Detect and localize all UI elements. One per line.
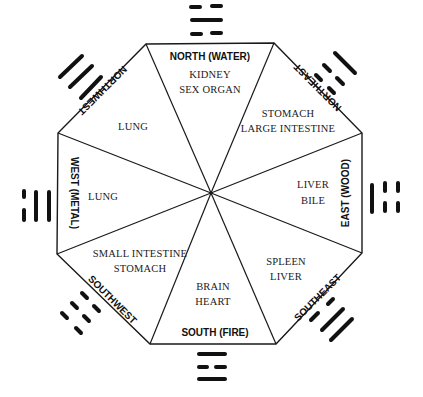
trigram-southwest-icon <box>62 293 99 333</box>
organ-label: SEX ORGAN <box>179 84 241 95</box>
sector-southeast: SOUTHEAST SPLEEN LIVER <box>266 256 343 323</box>
organ-label: LIVER <box>297 179 329 190</box>
organ-label: LUNG <box>88 191 118 202</box>
trigram-south-icon <box>199 354 225 379</box>
direction-label-northeast: NORTHEAST <box>292 62 344 114</box>
organ-label: LUNG <box>118 121 148 132</box>
direction-label-east: EAST (WOOD) <box>340 159 351 227</box>
organ-label: SPLEEN <box>266 256 306 267</box>
direction-label-south: SOUTH (FIRE) <box>181 327 248 338</box>
sector-west: WEST (METAL) LUNG <box>69 157 118 229</box>
sector-north: NORTH (WATER) KIDNEY SEX ORGAN <box>170 51 250 95</box>
sector-northeast: NORTHEAST STOMACH LARGE INTESTINE <box>241 62 344 134</box>
organ-label: STOMACH <box>262 108 315 119</box>
organ-label: LARGE INTESTINE <box>241 123 335 134</box>
organ-label: BILE <box>301 195 325 206</box>
organ-label: HEART <box>195 296 231 307</box>
bagua-diagram: NORTH (WATER) KIDNEY SEX ORGAN NORTHEAST… <box>0 0 423 397</box>
organ-label: SMALL INTESTINE <box>93 248 187 259</box>
organ-label: KIDNEY <box>189 69 231 80</box>
sector-southwest: SMALL INTESTINE STOMACH SOUTHWEST <box>86 248 187 326</box>
trigram-west-icon <box>24 191 49 220</box>
organ-label: STOMACH <box>114 263 167 274</box>
organ-label: LIVER <box>270 271 302 282</box>
trigram-north-icon <box>191 6 221 34</box>
sector-south: BRAIN HEART SOUTH (FIRE) <box>181 281 248 338</box>
organ-label: BRAIN <box>196 281 230 292</box>
sector-northwest: NORTHWEST LUNG <box>76 64 148 132</box>
direction-label-west: WEST (METAL) <box>69 157 80 229</box>
direction-label-southwest: SOUTHWEST <box>86 273 139 326</box>
sector-east: EAST (WOOD) LIVER BILE <box>297 159 351 227</box>
trigram-east-icon <box>372 183 398 212</box>
direction-label-north: NORTH (WATER) <box>170 51 250 62</box>
